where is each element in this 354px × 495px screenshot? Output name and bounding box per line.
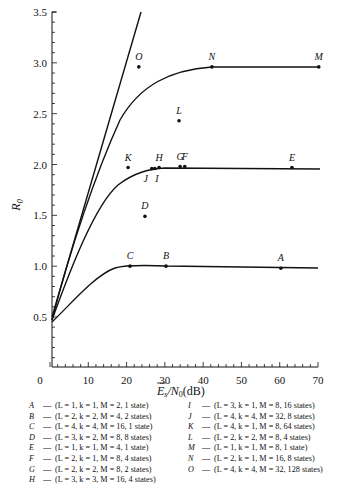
legend-dash: — <box>39 401 55 412</box>
x-tick-label: 10 <box>83 374 95 386</box>
legend-item: N—(L = 2, k = 1, M = 16, 8 states) <box>188 454 323 465</box>
data-point <box>317 65 321 69</box>
legend-key: B <box>29 412 39 423</box>
point-label: C <box>127 250 134 261</box>
point-label: E <box>288 152 295 163</box>
legend-text: (L = 2, k = 2, M = 8, 2 states) <box>55 465 152 476</box>
legend-text: (L = 1, k = 1, M = 4, 1 state) <box>55 443 148 454</box>
data-point <box>137 65 141 69</box>
legend-dash: — <box>39 443 55 454</box>
legend-dash: — <box>39 465 55 476</box>
data-point <box>290 166 294 170</box>
legend-dash: — <box>198 465 214 476</box>
legend-text: (L = 4, k = 4, M = 32, 128 states) <box>214 465 323 476</box>
legend-text: (L = 3, k = 2, M = 8, 8 states) <box>55 433 152 444</box>
point-label: N <box>208 51 217 62</box>
legend-text: (L = 1, k = 1, M = 2, 1 state) <box>55 401 148 412</box>
legend-dash: — <box>198 401 214 412</box>
y-tick-label: 3.5 <box>33 6 47 18</box>
legend-key: J <box>188 412 198 423</box>
legend-key: G <box>29 465 39 476</box>
svg-text:R0: R0 <box>9 199 25 211</box>
legend-text: (L = 2, k = 1, M = 8, 4 states) <box>55 454 152 465</box>
point-label: I <box>154 173 159 184</box>
legend-right: I—(L = 3, k = 1, M = 8, 16 states) J—(L … <box>188 401 323 475</box>
legend-dash: — <box>39 412 55 423</box>
y-tick-label: 2.0 <box>33 159 47 171</box>
data-point <box>126 166 130 170</box>
legend-text: (L = 2, k = 2, M = 4, 2 states) <box>55 412 152 423</box>
legend-item: J—(L = 4, k = 4, M = 32, 8 states) <box>188 412 323 423</box>
legend-dash: — <box>39 422 55 433</box>
y-tick-label: 1.5 <box>33 209 47 221</box>
legend-item: F—(L = 2, k = 1, M = 8, 4 states) <box>29 454 156 465</box>
legend-item: B—(L = 2, k = 2, M = 4, 2 states) <box>29 412 156 423</box>
legend-text: (L = 4, k = 4, M = 16, 1 state) <box>55 422 152 433</box>
legend-item: I—(L = 3, k = 1, M = 8, 16 states) <box>188 401 323 412</box>
legend-key: L <box>188 433 198 444</box>
legend-left: A—(L = 1, k = 1, M = 2, 1 state) B—(L = … <box>29 401 156 486</box>
legend-dash: — <box>198 433 214 444</box>
x-tick-label: 60 <box>274 374 286 386</box>
legend-item: E—(L = 1, k = 1, M = 4, 1 state) <box>29 443 156 454</box>
legend-dash: — <box>39 454 55 465</box>
point-label: G <box>177 151 184 162</box>
legend-item: K—(L = 4, k = 1, M = 8, 64 states) <box>188 422 323 433</box>
legend-item: D—(L = 3, k = 2, M = 8, 8 states) <box>29 433 156 444</box>
legend-item: L—(L = 2, k = 2, M = 8, 4 states) <box>188 433 323 444</box>
legend-text: (L = 3, k = 1, M = 8, 16 states) <box>214 401 315 412</box>
data-point <box>150 167 154 171</box>
point-label: M <box>314 51 324 62</box>
x-tick-labels: 010203040506070 <box>37 374 324 386</box>
legend-item: A—(L = 1, k = 1, M = 2, 1 state) <box>29 401 156 412</box>
data-point <box>157 166 161 170</box>
point-label: H <box>154 152 163 163</box>
y-tick-label: 3.0 <box>33 57 47 69</box>
point-label: K <box>124 152 133 163</box>
legend-text: (L = 2, k = 1, M = 16, 8 states) <box>214 454 315 465</box>
legend-text: (L = 3, k = 3, M = 16, 4 states) <box>55 475 156 486</box>
legend-key: F <box>29 454 39 465</box>
y-tick-labels: 0.51.01.52.02.53.03.5 <box>33 6 47 323</box>
legend-key: E <box>29 443 39 454</box>
legend-key: N <box>188 454 198 465</box>
legend-dash: — <box>198 412 214 423</box>
curve-r1 <box>52 265 318 322</box>
data-point <box>177 119 181 123</box>
x-axis-label: Es/N0(dB) <box>156 383 205 399</box>
x-tick-label: 0 <box>37 374 43 386</box>
x-tick-label: 20 <box>121 374 133 386</box>
legend-dash: — <box>39 433 55 444</box>
y-tick-label: 0.5 <box>33 311 47 323</box>
data-point <box>210 65 214 69</box>
point-label: D <box>140 200 149 211</box>
legend-dash: — <box>198 454 214 465</box>
legend-key: O <box>188 465 198 476</box>
legend-key: D <box>29 433 39 444</box>
point-label: J <box>144 173 149 184</box>
data-point <box>143 215 147 219</box>
legend-text: (L = 1, k = 1, M = 8, 1 state) <box>214 443 307 454</box>
point-label: O <box>135 51 142 62</box>
x-ticks <box>50 362 318 367</box>
legend-item: C—(L = 4, k = 4, M = 16, 1 state) <box>29 422 156 433</box>
x-tick-label: 50 <box>236 374 248 386</box>
legend-key: A <box>29 401 39 412</box>
y-tick-label: 2.5 <box>33 108 47 120</box>
legend-item: M—(L = 1, k = 1, M = 8, 1 state) <box>188 443 323 454</box>
legend-key: K <box>188 422 198 433</box>
data-point <box>183 165 187 169</box>
svg-text:Es/N0(dB): Es/N0(dB) <box>156 384 205 399</box>
data-point <box>178 165 182 169</box>
legend-dash: — <box>198 443 214 454</box>
legend-key: H <box>29 475 39 486</box>
data-point <box>153 167 157 171</box>
legend-item: G—(L = 2, k = 2, M = 8, 2 states) <box>29 465 156 476</box>
x-tick-label: 70 <box>313 374 325 386</box>
legend-key: M <box>188 443 198 454</box>
legend-item: O—(L = 4, k = 4, M = 32, 128 states) <box>188 465 323 476</box>
point-label: A <box>277 252 285 263</box>
y-axis-label: R0 <box>9 199 25 211</box>
point-label: L <box>175 105 182 116</box>
y-tick-label: 1.0 <box>33 260 47 272</box>
